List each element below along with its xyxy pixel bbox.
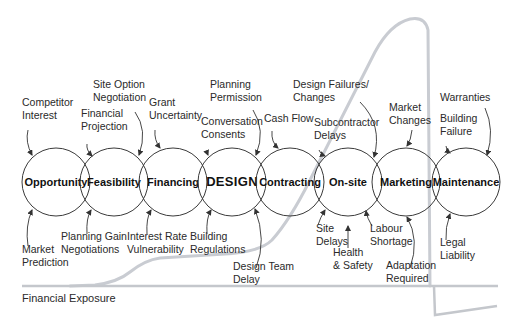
risk-label: MarketChanges <box>389 101 431 126</box>
svg-text:Cash Flow: Cash Flow <box>264 112 314 124</box>
risk-label: CompetitorInterest <box>22 96 74 121</box>
arrow-icon <box>27 210 32 246</box>
risks-below: MarketPredictionPlanning GainNegotiation… <box>22 222 476 285</box>
stage-label: Maintenance <box>433 176 500 188</box>
risk-label: BuildingFailure <box>440 112 478 137</box>
risk-label: Planning GainNegotiations <box>61 230 127 255</box>
svg-text:Planning Gain: Planning Gain <box>61 230 127 242</box>
arrow-icon <box>407 130 412 146</box>
risk-label: PlanningPermission <box>210 78 262 103</box>
arrow-icon <box>446 146 450 153</box>
stage-label: Feasibility <box>87 176 142 188</box>
risk-label: LegalLiability <box>440 236 476 261</box>
svg-text:Adaptation: Adaptation <box>386 259 436 271</box>
svg-text:Grant: Grant <box>149 96 175 108</box>
financial-exposure-label: Financial Exposure <box>22 292 116 304</box>
svg-text:Health: Health <box>333 246 364 258</box>
svg-text:Liability: Liability <box>440 249 476 261</box>
svg-text:Conversation: Conversation <box>201 115 263 127</box>
risk-label: Warranties <box>440 91 490 103</box>
svg-text:Regulations: Regulations <box>190 243 245 255</box>
svg-text:Competitor: Competitor <box>22 96 74 108</box>
svg-text:Required: Required <box>386 272 429 284</box>
svg-text:Delay: Delay <box>233 273 261 285</box>
stage-label: DESIGN <box>206 174 258 189</box>
risk-label: SiteDelays <box>316 222 348 247</box>
risk-label: ConversationConsents <box>201 115 263 140</box>
risk-label: BuildingRegulations <box>190 230 245 255</box>
arrow-icon <box>360 102 377 157</box>
svg-text:Market: Market <box>22 243 54 255</box>
svg-text:Uncertainty: Uncertainty <box>149 109 203 121</box>
svg-text:Delays: Delays <box>314 129 346 141</box>
exposure-drop-line <box>434 286 497 315</box>
svg-text:& Safety: & Safety <box>333 259 373 271</box>
arrow-icon <box>155 130 160 148</box>
stage-label: Marketing <box>380 176 432 188</box>
stage-label: On-site <box>329 176 367 188</box>
svg-text:Interest: Interest <box>22 109 57 121</box>
svg-text:Site: Site <box>316 222 334 234</box>
svg-text:Design Team: Design Team <box>233 260 294 272</box>
svg-text:Building: Building <box>190 230 228 242</box>
risk-label: LabourShortage <box>370 222 413 247</box>
svg-text:Projection: Projection <box>81 120 128 132</box>
svg-text:Changes: Changes <box>293 91 335 103</box>
svg-text:Negotiations: Negotiations <box>61 243 119 255</box>
risk-label: GrantUncertainty <box>149 96 203 121</box>
svg-text:Warranties: Warranties <box>440 91 490 103</box>
stage-label: Financing <box>147 176 199 188</box>
svg-text:Vulnerability: Vulnerability <box>127 243 185 255</box>
svg-text:Subcontractor: Subcontractor <box>314 116 380 128</box>
arrow-icon <box>205 151 208 155</box>
stage-label: Opportunity <box>25 176 89 188</box>
risk-label: Design Failures/Changes <box>293 78 369 103</box>
svg-text:Failure: Failure <box>440 125 472 137</box>
stage-label: Contracting <box>259 176 321 188</box>
svg-text:Permission: Permission <box>210 91 262 103</box>
svg-text:Shortage: Shortage <box>370 235 413 247</box>
svg-text:Site Option: Site Option <box>93 78 145 90</box>
risk-label: Site OptionNegotiation <box>93 78 146 103</box>
stage-maintenance: Maintenance <box>432 148 500 216</box>
arrow-icon <box>87 144 92 156</box>
svg-text:Consents: Consents <box>201 128 245 140</box>
svg-text:Financial: Financial <box>81 107 123 119</box>
risk-label: Cash Flow <box>264 112 314 124</box>
risk-label: Interest RateVulnerability <box>127 230 187 255</box>
svg-text:Prediction: Prediction <box>22 256 69 268</box>
risk-diagram: Financial Exposure OpportunityFeasibilit… <box>0 0 523 329</box>
svg-text:Design Failures/: Design Failures/ <box>293 78 369 90</box>
risks-above: CompetitorInterestFinancialProjectionSit… <box>22 78 490 141</box>
svg-text:Changes: Changes <box>389 114 431 126</box>
svg-text:Building: Building <box>440 112 478 124</box>
stage-feasibility: Feasibility <box>80 148 148 216</box>
stage-marketing: Marketing <box>372 148 440 216</box>
stage-financing: Financing <box>139 148 207 216</box>
risk-label: Design TeamDelay <box>233 260 294 285</box>
arrow-icon <box>272 131 278 148</box>
svg-text:Planning: Planning <box>210 78 251 90</box>
arrow-icon <box>485 108 491 155</box>
risk-label: FinancialProjection <box>81 107 128 132</box>
arrow-icon <box>27 130 32 155</box>
svg-text:Negotiation: Negotiation <box>93 91 146 103</box>
risk-label: SubcontractorDelays <box>314 116 380 141</box>
svg-text:Labour: Labour <box>370 222 403 234</box>
arrow-icon <box>135 112 143 155</box>
svg-text:Interest Rate: Interest Rate <box>127 230 187 242</box>
svg-text:Legal: Legal <box>440 236 466 248</box>
svg-text:Market: Market <box>389 101 421 113</box>
risk-label: Health& Safety <box>333 246 373 271</box>
